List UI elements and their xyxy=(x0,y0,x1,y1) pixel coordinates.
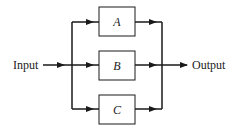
input-label: Input xyxy=(13,58,39,72)
block-diagram: Input A B C Output xyxy=(0,0,234,131)
block-a: A xyxy=(99,7,135,36)
block-c-label: C xyxy=(113,103,122,117)
block-a-label: A xyxy=(112,15,121,29)
output-label: Output xyxy=(192,58,226,72)
block-b: B xyxy=(99,51,135,80)
block-c: C xyxy=(99,95,135,124)
block-b-label: B xyxy=(113,59,121,73)
